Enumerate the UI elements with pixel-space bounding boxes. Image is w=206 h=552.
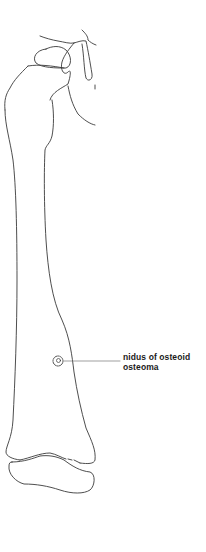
- talus-outline: [9, 456, 94, 493]
- annotation-label: nidus of osteoid osteoma: [123, 352, 190, 372]
- nidus-marker: [53, 356, 63, 366]
- proximal-head: [5, 36, 95, 125]
- bone-diagram: [0, 0, 206, 552]
- shaft-left-edge: [5, 110, 20, 460]
- annotation-line-2: osteoma: [123, 362, 190, 372]
- annotation-line-1: nidus of osteoid: [123, 352, 190, 362]
- distal-joint-line: [20, 453, 80, 463]
- shaft-right-edge: [44, 100, 95, 464]
- fibular-fragment: [74, 30, 96, 89]
